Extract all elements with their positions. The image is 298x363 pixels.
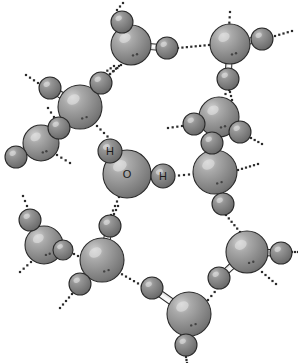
hydrogen-bond-dot: [118, 65, 120, 67]
hydrogen-bond-dot: [65, 300, 67, 302]
hydrogen-bond-dot: [229, 11, 231, 13]
hydrogen-bond-dot: [56, 154, 58, 156]
hydrogen-sphere: [19, 209, 41, 231]
atom-hydrogen-central-0: [98, 139, 122, 163]
hydrogen-bond-dot: [133, 280, 135, 282]
atom-oxygen-right-lower: [193, 150, 237, 194]
atom-hydrogen-left-mid-1: [5, 146, 27, 168]
sphere-facet-dot: [194, 323, 196, 325]
hydrogen-sphere: [53, 240, 73, 260]
hydrogen-bond-dot: [115, 68, 117, 70]
hydrogen-bond-dot: [23, 268, 25, 270]
sphere-facet-dot: [190, 324, 192, 326]
hydrogen-bond-dot: [110, 67, 112, 69]
hydrogen-bond-dot: [214, 291, 216, 293]
hydrogen-bond-dot: [106, 135, 108, 137]
hydrogen-sphere: [151, 164, 175, 188]
hydrogen-bond-dot: [203, 44, 205, 46]
sphere-facet-dot: [45, 254, 47, 256]
atom-hydrogen-bottom-center-0: [141, 277, 163, 299]
hydrogen-bond-dot: [109, 73, 111, 75]
hydrogen-bond-dot: [62, 303, 64, 305]
hydrogen-bond-dot: [116, 9, 118, 11]
hydrogen-bond-dot: [181, 46, 183, 48]
molecule-canvas: OHH: [0, 0, 298, 363]
hydrogen-bond-dot: [294, 251, 296, 253]
atom-hydrogen-left-mid-0: [48, 117, 70, 139]
hydrogen-sphere: [175, 334, 197, 356]
hydrogen-bond-dot: [188, 173, 190, 175]
hydrogen-bond-dot: [282, 32, 284, 34]
hydrogen-sphere: [201, 132, 223, 154]
atom-hydrogen-lower-left-small-1: [53, 240, 73, 260]
hydrogen-bond-dot: [291, 30, 293, 32]
hydrogen-sphere: [229, 121, 251, 143]
hydrogen-bond-dot: [24, 200, 26, 202]
hydrogen-bond-dot: [129, 278, 131, 280]
sphere-facet-dot: [216, 182, 218, 184]
atom-hydrogen-lower-left-big-1: [69, 273, 91, 295]
sphere-facet-dot: [224, 125, 226, 127]
hydrogen-bond-dot: [115, 209, 117, 211]
hydrogen-bond-dot: [210, 295, 212, 297]
sphere-facet-dot: [252, 261, 254, 263]
hydrogen-sphere: [90, 72, 112, 94]
hydrogen-bond-dot: [199, 45, 201, 47]
hydrogen-bond-dot: [106, 70, 108, 72]
atom-oxygen-bottom-center: [167, 292, 211, 336]
hydrogen-bond-dot: [183, 174, 185, 176]
hydrogen-sphere: [217, 68, 239, 90]
hydrogen-bond-dot: [297, 251, 298, 253]
hydrogen-bond-dot: [71, 293, 73, 295]
atom-hydrogen-top-center-0: [111, 11, 133, 33]
hydrogen-sphere: [270, 242, 292, 264]
hydrogen-bond-dot: [186, 46, 188, 48]
atom-hydrogen-right-upper-0: [183, 113, 205, 135]
sphere-facet-dot: [103, 270, 105, 272]
hydrogen-sphere: [39, 77, 61, 99]
sphere-facet-dot: [42, 151, 44, 153]
hydrogen-bond-dot: [274, 35, 276, 37]
hydrogen-bond-dot: [241, 168, 243, 170]
hydrogen-bond-dot: [229, 16, 231, 18]
hydrogen-bond-dot: [22, 195, 24, 197]
sphere-facet-dot: [136, 53, 138, 55]
hydrogen-bond-dot: [114, 205, 116, 207]
hydrogen-bond-dot: [116, 200, 118, 202]
hydrogen-bond-dot: [137, 282, 139, 284]
sphere-facet-dot: [85, 116, 87, 118]
hydrogen-bond-dot: [172, 126, 174, 128]
sphere-facet-dot: [220, 126, 222, 128]
hydrogen-bond-dot: [30, 261, 32, 263]
sphere-facet-dot: [132, 54, 134, 56]
atom-oxygen-bottom-right: [226, 231, 268, 273]
sphere-facet-dot: [220, 181, 222, 183]
hydrogen-bond-dot: [228, 217, 230, 219]
hydrogen-bond-dot: [233, 224, 235, 226]
hydrogen-bond-dot: [195, 45, 197, 47]
hydrogen-bond-dot: [33, 79, 35, 81]
hydrogen-bond-dot: [249, 165, 251, 167]
hydrogen-bond-dot: [25, 74, 27, 76]
hydrogen-bond-dot: [287, 31, 289, 33]
oxygen-sphere: [226, 231, 268, 273]
hydrogen-bond-dot: [26, 205, 28, 207]
hydrogen-bond-dot: [190, 46, 192, 48]
hydrogen-bond-dot: [176, 126, 178, 128]
hydrogen-sphere: [99, 215, 121, 237]
hydrogen-sphere: [156, 37, 178, 59]
hydrogen-bond-dot: [268, 277, 270, 279]
molecular-diagram-figure: OHH: [0, 0, 298, 363]
hydrogen-bond-dot: [69, 162, 71, 164]
hydrogen-bond-dot: [229, 91, 231, 93]
hydrogen-bond-dot: [271, 280, 273, 282]
hydrogen-bond-dot: [59, 307, 61, 309]
atom-hydrogen-right-upper-1: [229, 121, 251, 143]
atom-hydrogen-bottom-right-0: [270, 242, 292, 264]
hydrogen-sphere: [212, 193, 234, 215]
hydrogen-bond-dot: [185, 359, 187, 361]
atom-oxygen-top-right: [210, 24, 250, 64]
hydrogen-bond-dot: [121, 273, 123, 275]
hydrogen-bond-dot: [224, 93, 226, 95]
hydrogen-bond-dot: [99, 128, 101, 130]
